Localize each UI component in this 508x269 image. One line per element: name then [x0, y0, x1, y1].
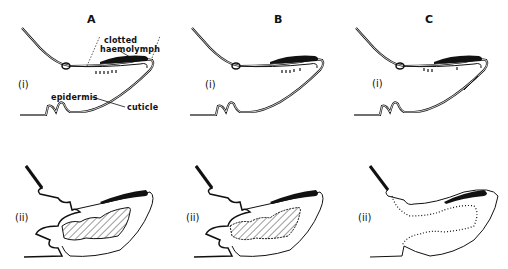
- row-label-c-ii: (ii): [358, 213, 371, 223]
- panel-A-ii: [24, 166, 153, 257]
- row-label-b-ii: (ii): [186, 213, 199, 223]
- annotation-haemolymph: haemolymph: [100, 46, 160, 54]
- panel-B-ii: [194, 166, 323, 257]
- row-label-a-ii: (ii): [15, 213, 28, 223]
- column-label-b: B: [274, 14, 282, 25]
- annotation-clotted: clotted: [104, 37, 137, 45]
- column-label-c: C: [425, 14, 433, 25]
- panel-C-i: [354, 28, 487, 115]
- panel-B-i: [190, 28, 323, 115]
- diagram-canvas: [0, 0, 508, 269]
- row-label-a-i: (i): [18, 80, 29, 90]
- column-label-a: A: [87, 14, 96, 25]
- annotation-epidermis: epidermis: [51, 94, 98, 102]
- panel-C-ii: [370, 166, 498, 257]
- row-label-b-i: (i): [205, 80, 216, 90]
- row-label-c-i: (i): [372, 79, 383, 89]
- annotation-cuticle: cuticle: [127, 104, 158, 112]
